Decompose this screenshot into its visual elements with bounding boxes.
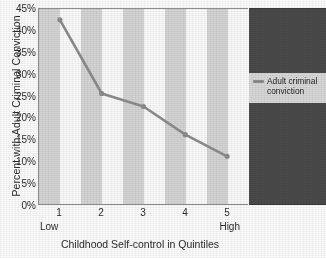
y-tick-label: 25%	[16, 90, 36, 101]
x-tick-label: 4	[182, 207, 188, 218]
legend-swatch-icon	[253, 80, 264, 83]
y-tick-label: 10%	[16, 156, 36, 167]
series-line	[60, 20, 227, 157]
legend-label: Adult criminal conviction	[267, 76, 324, 96]
y-tick-label: 45%	[16, 3, 36, 14]
y-tick-label: 35%	[16, 46, 36, 57]
x-axis-tick-labels: 12345	[38, 206, 250, 222]
y-tick-label: 40%	[16, 24, 36, 35]
plot-area	[38, 8, 248, 205]
y-axis-tick-labels: 0%5%10%15%20%25%30%35%40%45%	[14, 0, 36, 258]
y-tick-label: 20%	[16, 112, 36, 123]
series-data-point	[99, 91, 104, 96]
legend-panel: Adult criminal conviction	[249, 8, 326, 205]
legend-label-line1: Adult criminal	[267, 76, 317, 86]
series-data-point	[141, 104, 146, 109]
x-axis-end-labels: Low High	[38, 221, 250, 235]
x-tick-label: 1	[56, 207, 62, 218]
x-axis-low-label: Low	[40, 221, 58, 232]
line-series-svg	[39, 9, 248, 204]
y-tick-label: 30%	[16, 68, 36, 79]
x-axis-high-label: High	[219, 221, 240, 232]
chart-figure: Percent with Adult Criminal Conviction 0…	[0, 0, 326, 258]
series-data-point	[57, 17, 62, 22]
y-tick-label: 0%	[22, 200, 36, 211]
y-tick-label: 15%	[16, 134, 36, 145]
legend-label-line2: conviction	[267, 86, 304, 96]
series-data-point	[183, 132, 188, 137]
legend-entry: Adult criminal conviction	[249, 73, 326, 103]
x-tick-label: 5	[224, 207, 230, 218]
y-tick-label: 5%	[22, 178, 36, 189]
series-data-point	[225, 154, 230, 159]
x-axis-title: Childhood Self-control in Quintiles	[0, 238, 280, 250]
x-tick-label: 2	[98, 207, 104, 218]
x-tick-label: 3	[140, 207, 146, 218]
